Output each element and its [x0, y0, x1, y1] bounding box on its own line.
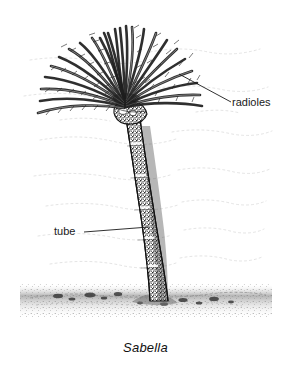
- label-tube: tube: [54, 226, 75, 237]
- sabella-illustration: [0, 0, 291, 365]
- label-radioles: radioles: [232, 97, 271, 108]
- figure-caption: Sabella: [0, 340, 291, 355]
- leader-line-radioles: [179, 74, 231, 102]
- sabella-figure: radioles tube Sabella: [0, 0, 291, 365]
- radiolar-crown: [38, 25, 202, 115]
- leader-line-tube: [84, 227, 149, 232]
- substrate: [20, 284, 272, 318]
